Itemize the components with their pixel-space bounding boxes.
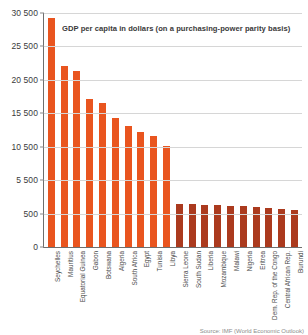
bar-slot[interactable]	[83, 13, 96, 247]
x-axis-label-slot: Dem. Rep. of the Congo	[263, 250, 276, 322]
bar-slot[interactable]	[109, 13, 122, 247]
bar[interactable]	[176, 204, 183, 247]
x-axis-label-slot: Botswana	[96, 250, 109, 322]
bar-slot[interactable]	[250, 13, 263, 247]
bar-slot[interactable]	[122, 13, 135, 247]
gridline	[44, 80, 302, 81]
bar[interactable]	[99, 103, 106, 247]
bar-slot[interactable]	[173, 13, 186, 247]
plot-area	[44, 13, 302, 247]
x-axis-label-slot: Tunisia	[147, 250, 160, 322]
gdp-per-capita-bar-chart: 05005 50010 50015 50020 50025 50030 500 …	[0, 0, 308, 335]
gridline	[44, 147, 302, 148]
bar[interactable]	[137, 132, 144, 247]
bar-slot[interactable]	[237, 13, 250, 247]
bar-slot[interactable]	[96, 13, 109, 247]
x-axis-label-slot: Central African Rep.	[275, 250, 288, 322]
gridline	[44, 180, 302, 181]
bar-slot[interactable]	[275, 13, 288, 247]
y-axis-tick-label: 500	[24, 209, 38, 219]
x-axis-labels: SeychellesMauritiusEquatorial GuineaGabo…	[44, 250, 302, 322]
bar-slot[interactable]	[263, 13, 276, 247]
x-axis-label-slot: Burundi	[288, 250, 301, 322]
chart-title: GDP per capita in dollars (on a purchasi…	[62, 24, 290, 33]
bar[interactable]	[163, 146, 170, 247]
bar[interactable]	[240, 206, 247, 247]
bar[interactable]	[73, 71, 80, 247]
gridline	[44, 247, 302, 248]
x-axis-label-slot: Libya	[160, 250, 173, 322]
gridline	[44, 113, 302, 114]
x-axis-label-slot: Mauritius	[58, 250, 71, 322]
bar-slot[interactable]	[224, 13, 237, 247]
x-axis-label-slot: Malawi	[224, 250, 237, 322]
bar-slot[interactable]	[147, 13, 160, 247]
bar-slot[interactable]	[71, 13, 84, 247]
x-axis-label-slot: Eritrea	[250, 250, 263, 322]
bar-slot[interactable]	[186, 13, 199, 247]
bar-slot[interactable]	[135, 13, 148, 247]
y-axis-tick-label: 25 500	[11, 41, 38, 51]
bar[interactable]	[227, 206, 234, 247]
bar-slot[interactable]	[58, 13, 71, 247]
x-axis-label-slot: Mozambique	[211, 250, 224, 322]
x-axis-label-slot: Algeria	[109, 250, 122, 322]
x-axis-label-slot: Seychelles	[45, 250, 58, 322]
x-axis-label-slot: Nigeria	[237, 250, 250, 322]
x-axis-label-slot: South Sudan	[186, 250, 199, 322]
bar-slot[interactable]	[160, 13, 173, 247]
bar-slot[interactable]	[199, 13, 212, 247]
x-axis-tick-label: Burundi	[297, 251, 304, 273]
x-axis-label-slot: Liberia	[199, 250, 212, 322]
x-axis-label-slot: South Africa	[122, 250, 135, 322]
source-note: Source: IMF (World Economic Outlook)	[200, 328, 304, 334]
x-axis-label-slot: Gabon	[83, 250, 96, 322]
gridline	[44, 13, 302, 14]
bar[interactable]	[150, 136, 157, 247]
y-axis: 05005 50010 50015 50020 50025 50030 500	[0, 13, 44, 247]
bar-slot[interactable]	[288, 13, 301, 247]
y-axis-tick-label: 30 500	[11, 8, 38, 18]
y-axis-tick-label: 0	[33, 242, 38, 252]
bar[interactable]	[125, 126, 132, 247]
bar[interactable]	[201, 205, 208, 247]
y-axis-tick-label: 20 500	[11, 75, 38, 85]
bar[interactable]	[86, 99, 93, 247]
gridline	[44, 46, 302, 47]
bar-series	[44, 13, 302, 247]
gridline	[44, 214, 302, 215]
y-axis-tick-label: 15 500	[11, 108, 38, 118]
y-axis-tick-label: 5 500	[16, 175, 38, 185]
bar[interactable]	[61, 66, 68, 247]
bar[interactable]	[112, 118, 119, 247]
bar[interactable]	[214, 205, 221, 247]
y-axis-tick-label: 10 500	[11, 142, 38, 152]
x-axis-label-slot: Sierra Leone	[173, 250, 186, 322]
x-axis-label-slot: Egypt	[135, 250, 148, 322]
bar[interactable]	[291, 210, 298, 247]
x-axis-label-slot: Equatorial Guinea	[71, 250, 84, 322]
bar[interactable]	[189, 204, 196, 247]
bar-slot[interactable]	[211, 13, 224, 247]
bar-slot[interactable]	[45, 13, 58, 247]
